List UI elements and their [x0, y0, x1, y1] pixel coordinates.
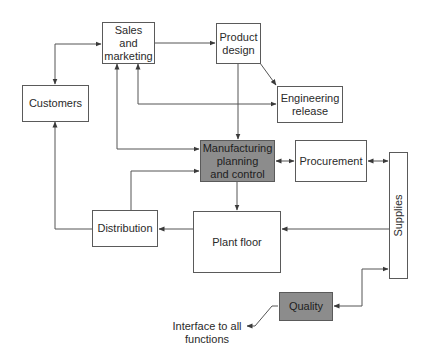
customers-label: Customers [29, 97, 82, 110]
quality-label: Quality [289, 300, 323, 313]
engineering-release-label: Engineering release [281, 92, 340, 118]
distribution-label: Distribution [97, 222, 152, 235]
plant-floor-box: Plant floor [193, 211, 281, 273]
procurement-label: Procurement [300, 155, 363, 168]
manufacturing-planning-control-box: Manufacturing planning and control [200, 140, 275, 182]
sales-and-marketing-box: Sales and marketing [102, 22, 155, 64]
sales-and-marketing-label: Sales and marketing [104, 24, 152, 63]
interface-annotation: Interface to all functions [166, 320, 248, 346]
edge-quality-interface [247, 306, 278, 326]
plant-floor-label: Plant floor [212, 236, 262, 249]
supplies-box: Supplies [389, 152, 408, 279]
edge-product-engineering [260, 63, 276, 85]
edge-customers-sales [55, 44, 101, 84]
engineering-release-box: Engineering release [277, 86, 343, 123]
edge-supplies-quality [334, 269, 388, 306]
distribution-box: Distribution [92, 210, 158, 247]
edge-sales-mpc [117, 64, 199, 149]
product-design-box: Product design [216, 23, 261, 64]
customers-box: Customers [22, 85, 89, 122]
edge-engineering-sales [138, 64, 276, 104]
product-design-label: Product design [220, 31, 258, 57]
supplies-label: Supplies [392, 194, 405, 236]
diagram-canvas: Sales and marketing Product design Custo… [0, 0, 424, 358]
quality-box: Quality [279, 292, 333, 321]
manufacturing-planning-control-label: Manufacturing planning and control [203, 142, 273, 181]
edge-distribution-mpc [131, 171, 199, 210]
edge-distribution-customers [55, 122, 92, 229]
procurement-box: Procurement [295, 140, 367, 182]
